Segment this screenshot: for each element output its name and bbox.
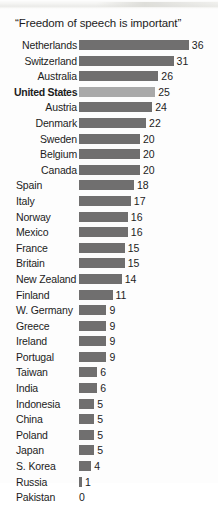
category-label: New Zealand — [16, 272, 78, 288]
bar-value-label: 36 — [192, 38, 204, 54]
bar — [79, 212, 128, 222]
category-label: Austria — [14, 100, 77, 116]
bar — [79, 274, 122, 284]
bar — [79, 383, 97, 393]
bar-value-label: 5 — [97, 428, 103, 444]
bar-row: Portugal9 — [0, 350, 218, 366]
bar-value-label: 25 — [158, 85, 170, 101]
category-label: Mexico — [16, 225, 78, 241]
category-label: Japan — [16, 443, 78, 459]
bar-row: Canada20 — [0, 163, 218, 179]
bar — [79, 477, 82, 487]
category-label: Pakistan — [16, 490, 78, 505]
bar-value-label: 11 — [116, 288, 127, 304]
bar-value-label: 6 — [100, 381, 106, 397]
category-label: China — [16, 412, 78, 428]
bar-row: Indonesia5 — [0, 397, 218, 413]
bar — [79, 414, 94, 424]
bar-row: United States25 — [0, 85, 218, 101]
bar-value-label: 0 — [79, 490, 85, 505]
bar-row: India6 — [0, 381, 218, 397]
bar — [79, 321, 106, 331]
bar — [79, 445, 94, 455]
bar-value-label: 17 — [134, 194, 146, 210]
bar — [79, 430, 94, 440]
bar-value-label: 15 — [128, 241, 140, 257]
bar — [79, 118, 146, 128]
category-label: Belgium — [14, 147, 77, 163]
bar-value-label: 5 — [97, 412, 103, 428]
bar — [79, 243, 125, 253]
bar-row: China5 — [0, 412, 218, 428]
bar — [79, 40, 189, 50]
bar-row: Mexico16 — [0, 225, 218, 241]
bar-row: W. Germany9 — [0, 303, 218, 319]
bar — [79, 367, 97, 377]
bar-value-label: 9 — [109, 319, 115, 335]
bar-value-label: 4 — [94, 459, 100, 475]
bar-row: Italy17 — [0, 194, 218, 210]
bar — [79, 102, 152, 112]
bar — [79, 180, 134, 190]
bar-row: S. Korea4 — [0, 459, 218, 475]
bar-row: Austria24 — [0, 100, 218, 116]
bar-row: Australia26 — [0, 69, 218, 85]
bar — [79, 56, 174, 66]
bar — [79, 336, 106, 346]
bar-value-label: 22 — [149, 116, 161, 132]
bar — [79, 352, 106, 362]
bar — [79, 196, 131, 206]
category-label: Italy — [16, 194, 78, 210]
bar-row: Taiwan6 — [0, 365, 218, 381]
bar-row: New Zealand14 — [0, 272, 218, 288]
bar-row: Britain15 — [0, 256, 218, 272]
category-label: Ireland — [16, 334, 78, 350]
bar-value-label: 6 — [100, 365, 106, 381]
category-label: Taiwan — [16, 365, 78, 381]
bar-value-label: 9 — [109, 350, 115, 366]
category-label: W. Germany — [16, 303, 78, 319]
bar — [79, 461, 91, 471]
category-label: India — [16, 381, 78, 397]
category-label: United States — [14, 85, 77, 101]
bar — [79, 305, 106, 315]
bar-row: Finland11 — [0, 288, 218, 304]
bar-row: Russia1 — [0, 475, 218, 491]
bar-row: Pakistan0 — [0, 490, 218, 505]
category-label: Canada — [14, 163, 77, 179]
bar-row: Greece9 — [0, 319, 218, 335]
category-label: Indonesia — [16, 397, 78, 413]
bar-value-label: 9 — [109, 334, 115, 350]
bar-value-label: 20 — [143, 163, 155, 179]
bar — [79, 290, 113, 300]
category-label: Australia — [14, 69, 77, 85]
category-label: S. Korea — [16, 459, 78, 475]
category-label: Denmark — [14, 116, 77, 132]
bar-row: Sweden20 — [0, 132, 218, 148]
category-label: Russia — [16, 475, 78, 491]
bar — [79, 258, 125, 268]
bar-value-label: 20 — [143, 132, 155, 148]
chart-title: “Freedom of speech is important” — [15, 17, 181, 29]
bar-value-label: 9 — [109, 303, 115, 319]
bar-value-label: 20 — [143, 147, 155, 163]
bar — [79, 227, 128, 237]
category-label: Portugal — [16, 350, 78, 366]
bar-value-label: 26 — [161, 69, 173, 85]
category-label: Switzerland — [14, 54, 77, 70]
category-label: France — [16, 241, 78, 257]
bar-row: Norway16 — [0, 210, 218, 226]
chart-plot-area: Netherlands36Switzerland31Australia26Uni… — [0, 38, 218, 505]
bar-value-label: 15 — [128, 256, 140, 272]
category-label: Spain — [16, 178, 78, 194]
bar-value-label: 5 — [97, 397, 103, 413]
scan-artifact-streak — [96, 2, 218, 7]
bar — [79, 71, 158, 81]
bar-row: Poland5 — [0, 428, 218, 444]
category-label: Poland — [16, 428, 78, 444]
category-label: Sweden — [14, 132, 77, 148]
bar-value-label: 18 — [137, 178, 149, 194]
bar-value-label: 16 — [131, 225, 143, 241]
bar-row: Japan5 — [0, 443, 218, 459]
bar-row: Belgium20 — [0, 147, 218, 163]
